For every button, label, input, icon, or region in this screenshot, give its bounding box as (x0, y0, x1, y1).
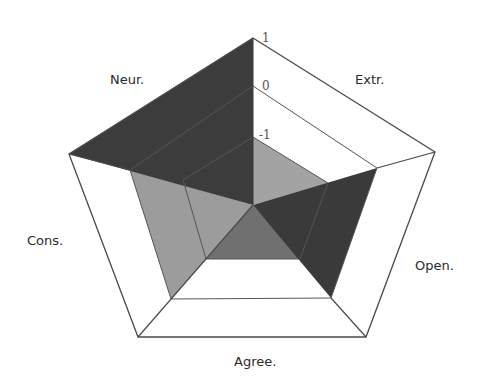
tick-label-1: 1 (262, 31, 270, 45)
axis-label-cons: Cons. (27, 233, 63, 248)
spoke-right (377, 152, 435, 168)
axis-label-neur: Neur. (110, 72, 144, 87)
axis-label-open: Open. (415, 258, 454, 273)
radar-chart: 1 0 -1 Neur. Extr. Open. Agree. Cons. (0, 0, 489, 387)
axis-label-extr: Extr. (355, 72, 384, 87)
tick-label-minus1: -1 (259, 128, 271, 142)
axis-label-agree: Agree. (234, 354, 276, 369)
spoke-bottom-right (331, 298, 366, 337)
tick-label-0: 0 (262, 79, 270, 93)
